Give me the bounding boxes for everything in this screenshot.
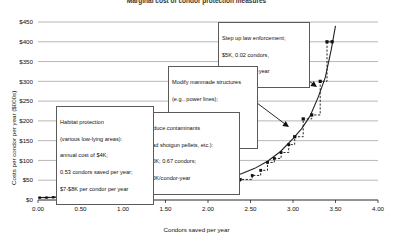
data-point-marker: [319, 80, 322, 83]
data-point-marker: [251, 174, 254, 177]
arrow-manmade-head: [282, 121, 289, 127]
x-tick-label: 4.00: [372, 205, 385, 212]
data-point-marker: [266, 161, 269, 164]
x-tick-label: 0.00: [32, 205, 45, 212]
callout-habitat-line1: Habitat protection: [60, 118, 150, 126]
callout-contaminants: Reduce contaminants (lead shotgun pellet…: [142, 112, 240, 195]
callout-habitat-line2: (various low-lying areas):: [60, 135, 150, 143]
x-tick-label: 0.50: [74, 205, 87, 212]
data-point-marker: [287, 143, 290, 146]
callout-law-enforcement-line1: Step up law enforcement;: [222, 34, 306, 42]
x-tick-label: 1.50: [159, 205, 172, 212]
callout-law-enforcement-line2: $5K, 0.02 condors,: [222, 51, 306, 59]
data-point-marker: [280, 151, 283, 154]
y-tick-label: $200: [19, 117, 33, 124]
chart-container: Marginal cost of condor protection measu…: [0, 0, 393, 239]
data-point-marker: [52, 196, 54, 198]
y-tick-label: $450: [19, 18, 33, 25]
data-point-marker: [45, 196, 47, 198]
callout-contaminants-line2: (lead shotgun pellets, etc.):: [146, 141, 236, 149]
y-tick-label: $150: [19, 137, 33, 144]
y-axis-tick-labels: $0$50$100$150$200$250$300$350$400$450: [19, 18, 33, 203]
callout-habitat-line4: 0.53 condors saved per year;: [60, 168, 150, 176]
data-point-marker: [259, 169, 262, 172]
arrow-law-enforcement-head: [310, 81, 317, 87]
x-axis-tick-labels: 0.000.501.001.502.002.503.003.504.00: [32, 205, 385, 212]
callout-manmade-line2: (e.g., power lines);: [172, 95, 254, 103]
callout-contaminants-line4: $30K/condor-year: [146, 174, 236, 182]
x-tick-label: 3.50: [329, 205, 342, 212]
data-point-marker: [39, 196, 41, 198]
callout-contaminants-line1: Reduce contaminants: [146, 124, 236, 132]
x-axis-title: Condors saved per year: [0, 226, 393, 233]
y-tick-label: $100: [19, 157, 33, 164]
y-axis-title: Costs per condor per year ($000s): [10, 91, 17, 185]
y-tick-label: $250: [19, 97, 33, 104]
callout-contaminants-line3: $20K; 0.67 condors;: [146, 157, 236, 165]
x-tick-label: 3.00: [287, 205, 300, 212]
x-tick-label: 2.00: [202, 205, 215, 212]
data-point-marker: [302, 117, 305, 120]
data-point-marker: [325, 40, 328, 43]
x-tick-label: 2.50: [244, 205, 257, 212]
chart-title: Marginal cost of condor protection measu…: [0, 0, 393, 5]
callout-manmade-line1: Modify manmade structures: [172, 78, 254, 86]
y-tick-label: $0: [26, 196, 33, 203]
callout-habitat-line3: annual cost of $4K;: [60, 151, 150, 159]
data-point-marker: [273, 157, 276, 160]
x-tick-label: 1.00: [117, 205, 130, 212]
y-tick-label: $350: [19, 58, 33, 65]
data-point-marker: [310, 113, 313, 116]
y-tick-label: $400: [19, 38, 33, 45]
callout-habitat-protection: Habitat protection (various low-lying ar…: [56, 106, 154, 205]
y-tick-label: $300: [19, 78, 33, 85]
callout-habitat-line5: $7-$8K per condor per year: [60, 185, 150, 193]
data-point-marker: [293, 135, 296, 138]
data-point-marker: [331, 40, 334, 43]
y-tick-label: $50: [23, 176, 34, 183]
